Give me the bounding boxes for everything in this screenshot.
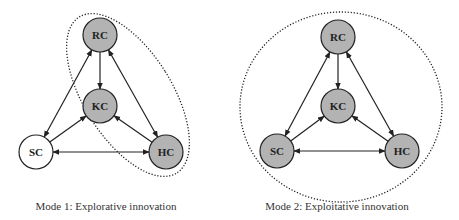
mode1-node-hc-label: HC [158,146,175,158]
mode1-boundary-ellipse [42,0,214,196]
mode2-node-kc-label: KC [330,100,347,112]
mode2-edge-hc-kc [352,116,388,141]
mode1-node-sc: SC [19,135,53,169]
mode2-edge-sc-kc [291,116,325,141]
mode1-node-rc: RC [83,18,117,52]
mode1-edge-hc-kc [114,116,152,143]
mode1-node-kc-label: KC [92,100,109,112]
mode1-nodes: RCKCSCHC [19,18,183,169]
mode2-node-sc: SC [260,134,294,168]
mode2-edge-rc-sc [285,52,330,136]
mode1-node-rc-label: RC [92,29,108,41]
mode1-diagram: RCKCSCHC Mode 1: Explorative innovation [19,0,214,212]
mode1-node-hc: HC [149,135,183,169]
mode1-node-sc-label: SC [29,146,43,158]
mode2-caption: Mode 2: Exploitative innovation [265,200,409,212]
mode2-node-rc-label: RC [330,31,346,43]
mode2-nodes: RCKCSCHC [260,20,419,168]
diagram-canvas: RCKCSCHC Mode 1: Explorative innovation … [0,0,459,220]
mode2-edge-rc-hc [346,52,393,136]
mode2-node-hc-label: HC [394,145,411,157]
mode2-diagram: RCKCSCHC Mode 2: Exploitative innovation [240,12,442,212]
mode1-caption: Mode 1: Explorative innovation [36,200,177,212]
mode2-node-sc-label: SC [270,145,284,157]
mode1-node-kc: KC [83,89,117,123]
mode2-node-kc: KC [321,89,355,123]
mode1-edge-rc-hc [108,50,157,137]
mode2-node-rc: RC [321,20,355,54]
mode2-node-hc: HC [385,134,419,168]
mode1-edge-sc-kc [50,116,86,142]
